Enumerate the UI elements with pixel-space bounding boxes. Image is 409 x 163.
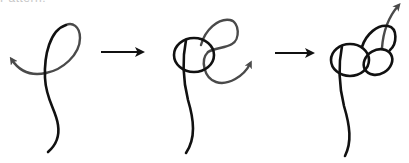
standing-part-step-3: [340, 46, 350, 156]
upper-loop-step-3: [362, 26, 395, 50]
loop-step-1: [46, 24, 80, 73]
standing-part-step-2: [184, 40, 193, 153]
first-loop-step-2: [174, 38, 214, 72]
working-end-step-1: [12, 60, 46, 74]
step-3-figure: [331, 6, 398, 156]
standing-part-step-1: [45, 25, 66, 152]
step-2-figure: [174, 20, 250, 153]
working-end-step-2: [204, 52, 250, 83]
knot-diagram: [0, 0, 409, 163]
step-1-figure: [12, 24, 80, 152]
upper-loop-step-2: [201, 20, 238, 52]
